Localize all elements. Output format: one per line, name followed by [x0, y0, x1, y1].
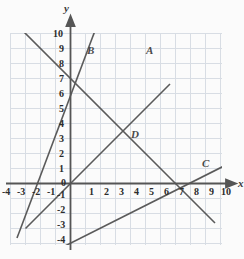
data-lines: [15, 23, 224, 251]
y-tick-label: 6: [59, 88, 64, 99]
y-tick-label: -4: [57, 234, 65, 245]
x-tick-label: 6: [164, 186, 169, 197]
y-tick-label: -1: [57, 189, 65, 200]
x-tick-label: -2: [32, 186, 40, 197]
x-tick-label: 10: [221, 186, 231, 197]
y-tick-label: 9: [59, 43, 64, 54]
y-axis-label: y: [64, 2, 69, 14]
x-tick-label: 2: [104, 186, 109, 197]
line-label-D: D: [131, 128, 139, 140]
y-tick-label: 8: [59, 58, 64, 69]
y-tick-label: 5: [59, 103, 64, 114]
x-tick-label: 4: [134, 186, 139, 197]
y-tick-label: 1: [59, 163, 64, 174]
x-tick-label: 5: [149, 186, 154, 197]
x-tick-label: 3: [119, 186, 124, 197]
x-tick-label: 1: [89, 186, 94, 197]
y-tick-label: -2: [57, 204, 65, 215]
x-tick-label: 7: [179, 186, 184, 197]
x-axis-label: x: [238, 177, 244, 189]
x-tick-label: -1: [47, 186, 55, 197]
x-tick-label: 9: [209, 186, 214, 197]
x-tick-label: -3: [17, 186, 25, 197]
line-label-B: B: [87, 44, 94, 56]
y-tick-label: 4: [59, 118, 64, 129]
y-tick-label: 10: [53, 28, 63, 39]
x-tick-label: -4: [2, 186, 10, 197]
graph-canvas: -4 -3 -2 -1 1 2 3 4 5 6 7 8 9 10 10 9 8 …: [0, 0, 244, 259]
y-tick-label: 2: [59, 148, 64, 159]
line-label-C: C: [202, 157, 209, 169]
y-tick-label: 3: [59, 133, 64, 144]
y-tick-label: -3: [57, 219, 65, 230]
y-axis-arrow: [67, 16, 75, 26]
line-label-A: A: [146, 44, 153, 56]
line-C: [55, 166, 224, 251]
y-tick-label-zero: 0: [61, 177, 66, 188]
y-tick-label: 7: [59, 73, 64, 84]
coordinate-plot: [0, 0, 244, 259]
x-tick-label: 8: [194, 186, 199, 197]
